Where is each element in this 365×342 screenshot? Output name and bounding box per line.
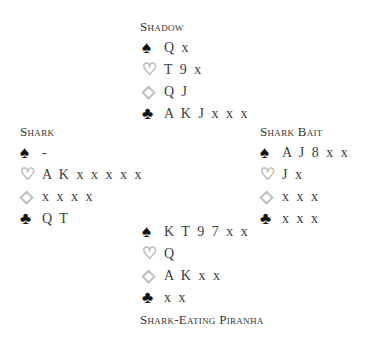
hearts-row: ♡ T 9 x xyxy=(140,59,249,81)
heart-cards: A K x x x x x xyxy=(42,164,143,186)
diamond-cards: x x x xyxy=(282,186,320,208)
spades-row: ♠ Q x xyxy=(140,37,249,59)
spade-icon: ♠ xyxy=(142,37,164,59)
diamond-icon: ◇ xyxy=(260,186,282,208)
club-cards: Q T xyxy=(42,208,70,230)
club-cards: x x xyxy=(164,287,188,309)
clubs-row: ♣ Q T xyxy=(20,208,143,230)
heart-icon: ♡ xyxy=(142,243,164,265)
diamond-icon: ◇ xyxy=(142,81,164,103)
west-hand: Shark ♠ - ♡ A K x x x x x ◇ x x x x ♣ Q … xyxy=(20,122,143,230)
clubs-row: ♣ x x x xyxy=(260,208,350,230)
spade-cards: A J 8 x x xyxy=(282,142,350,164)
heart-icon: ♡ xyxy=(142,59,164,81)
club-icon: ♣ xyxy=(20,208,42,230)
spade-icon: ♠ xyxy=(142,221,164,243)
hearts-row: ♡ J x xyxy=(260,164,350,186)
spade-cards: Q x xyxy=(164,37,191,59)
spade-icon: ♠ xyxy=(260,142,282,164)
player-name-north: Shadow xyxy=(140,17,249,37)
heart-icon: ♡ xyxy=(20,164,42,186)
spades-row: ♠ A J 8 x x xyxy=(260,142,350,164)
club-cards: A K J x x x xyxy=(164,103,249,125)
clubs-row: ♣ A K J x x x xyxy=(140,103,249,125)
clubs-row: ♣ x x xyxy=(140,287,263,309)
diamond-icon: ◇ xyxy=(20,186,42,208)
spade-cards: K T 9 7 x x xyxy=(164,221,250,243)
spade-cards: - xyxy=(42,142,49,164)
diamond-icon: ◇ xyxy=(142,265,164,287)
heart-cards: Q xyxy=(164,243,176,265)
spades-row: ♠ - xyxy=(20,142,143,164)
north-hand: Shadow ♠ Q x ♡ T 9 x ◇ Q J ♣ A K J x x x xyxy=(140,17,249,125)
diamonds-row: ◇ A K x x xyxy=(140,265,263,287)
diamond-cards: A K x x xyxy=(164,265,222,287)
heart-icon: ♡ xyxy=(260,164,282,186)
east-hand: Shark Bait ♠ A J 8 x x ♡ J x ◇ x x x ♣ x… xyxy=(260,122,350,230)
heart-cards: T 9 x xyxy=(164,59,203,81)
south-hand: ♠ K T 9 7 x x ♡ Q ◇ A K x x ♣ x x Shark-… xyxy=(140,221,263,330)
hearts-row: ♡ Q xyxy=(140,243,263,265)
heart-cards: J x xyxy=(282,164,304,186)
diamonds-row: ◇ x x x x xyxy=(20,186,143,208)
diamonds-row: ◇ Q J xyxy=(140,81,249,103)
player-name-west: Shark xyxy=(20,122,143,142)
spades-row: ♠ K T 9 7 x x xyxy=(140,221,263,243)
diamonds-row: ◇ x x x xyxy=(260,186,350,208)
hearts-row: ♡ A K x x x x x xyxy=(20,164,143,186)
club-icon: ♣ xyxy=(142,287,164,309)
diamond-cards: x x x x xyxy=(42,186,95,208)
spade-icon: ♠ xyxy=(20,142,42,164)
player-name-south: Shark-Eating Piranha xyxy=(140,310,263,330)
player-name-east: Shark Bait xyxy=(260,122,350,142)
club-cards: x x x xyxy=(282,208,320,230)
diamond-cards: Q J xyxy=(164,81,189,103)
club-icon: ♣ xyxy=(142,103,164,125)
